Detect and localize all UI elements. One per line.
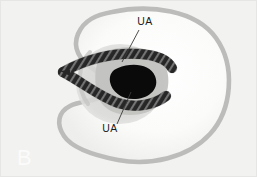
label-ua-lower: UA xyxy=(102,122,117,134)
figure-panel: UA UA B xyxy=(0,0,257,177)
anatomical-diagram: UA UA B xyxy=(0,0,257,177)
label-ua-upper: UA xyxy=(137,15,152,27)
panel-letter-label: B xyxy=(17,145,32,170)
